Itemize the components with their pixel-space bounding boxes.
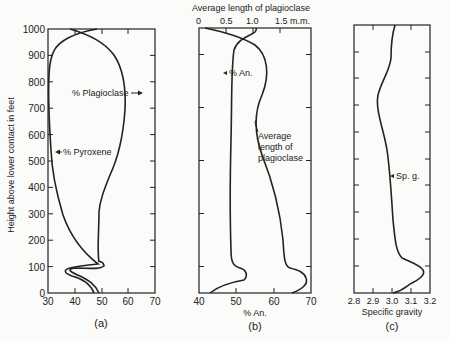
- svg-text:60: 60: [122, 296, 134, 307]
- svg-text:60: 60: [268, 296, 280, 307]
- svg-text:600: 600: [28, 130, 45, 141]
- top-axis-title: Average length of plagioclase: [192, 3, 310, 13]
- annotation-pyroxene: % Pyroxene: [63, 147, 112, 157]
- panel-c: Sp. g. 2.8 2.9 3.0 3.1 3.2 Specific grav…: [348, 25, 437, 332]
- svg-text:3.0: 3.0: [386, 296, 399, 306]
- top-x-ticks: 0 0.5 1.0 1.5 m.m.: [196, 16, 310, 26]
- svg-text:200: 200: [28, 235, 45, 246]
- svg-text:40: 40: [69, 296, 81, 307]
- svg-text:30: 30: [42, 296, 54, 307]
- panel-c-xlabel: Specific gravity: [362, 307, 423, 317]
- svg-text:700: 700: [28, 103, 45, 114]
- panel-a-label: (a): [94, 317, 107, 329]
- svg-text:1000: 1000: [23, 24, 46, 35]
- series-plagioclase: [70, 29, 125, 293]
- panel-c-x-ticks: 2.8 2.9 3.0 3.1 3.2: [348, 296, 437, 306]
- svg-text:800: 800: [28, 77, 45, 88]
- svg-text:300: 300: [28, 209, 45, 220]
- svg-text:500: 500: [28, 156, 45, 167]
- svg-text:1.0: 1.0: [246, 16, 259, 26]
- series-specific-gravity: [377, 25, 423, 293]
- annotation-avg-length-3: plagioclase: [258, 153, 303, 163]
- annotation-spg: Sp. g.: [396, 171, 420, 181]
- svg-text:0: 0: [196, 16, 201, 26]
- panel-b-x-ticks: 40 50 60 70: [193, 296, 317, 307]
- panel-b: Average length of plagioclase 0 0.5 1.0 …: [192, 3, 317, 332]
- panel-b-label: (b): [248, 320, 261, 332]
- figure: Height above lower contact in feet 0 100…: [0, 0, 449, 341]
- svg-text:1.5 m.m.: 1.5 m.m.: [275, 16, 310, 26]
- annotation-avg-length-1: Average: [258, 131, 291, 141]
- svg-text:2.9: 2.9: [367, 296, 380, 306]
- annotation-plagioclase: % Plagioclase: [72, 88, 129, 98]
- y-tick-labels: 0 100 200 300 400 500 600 700 800 900 10…: [23, 24, 46, 299]
- panel-c-label: (c): [386, 320, 399, 332]
- panel-a: % Plagioclase % Pyroxene 30 40 50 60 70 …: [42, 29, 161, 329]
- annotation-avg-length-2: length of: [258, 142, 293, 152]
- svg-text:70: 70: [305, 296, 317, 307]
- panel-a-x-ticks: 30 40 50 60 70: [42, 296, 161, 307]
- svg-text:50: 50: [96, 296, 108, 307]
- series-pyroxene: [49, 29, 98, 293]
- svg-text:900: 900: [28, 50, 45, 61]
- svg-text:3.1: 3.1: [405, 296, 418, 306]
- svg-text:100: 100: [28, 262, 45, 273]
- svg-text:50: 50: [230, 296, 242, 307]
- svg-text:400: 400: [28, 182, 45, 193]
- y-axis-label: Height above lower contact in feet: [6, 97, 16, 233]
- svg-text:40: 40: [193, 296, 205, 307]
- panel-b-xlabel: % An.: [243, 308, 267, 318]
- annotation-an: % An.: [229, 68, 253, 78]
- svg-text:0.5: 0.5: [220, 16, 233, 26]
- svg-text:70: 70: [149, 296, 161, 307]
- svg-text:3.2: 3.2: [424, 296, 437, 306]
- svg-text:2.8: 2.8: [348, 296, 361, 306]
